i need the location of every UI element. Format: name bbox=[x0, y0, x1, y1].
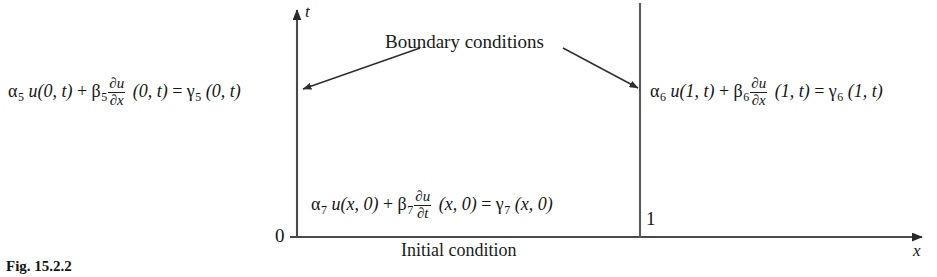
gamma-symbol: γ bbox=[187, 81, 195, 101]
rhs-argument: (0, t) bbox=[206, 81, 241, 101]
equals-operator: = bbox=[481, 194, 491, 214]
beta-subscript: 5 bbox=[101, 90, 108, 104]
initial-condition-label: Initial condition bbox=[401, 240, 516, 261]
figure-15-2-2: α5 u(0, t) + β5∂u∂x (0, t) = γ5 (0, t) α… bbox=[0, 0, 937, 277]
gamma-subscript: 7 bbox=[504, 203, 511, 217]
partial-derivative-fraction: ∂u∂x bbox=[108, 76, 125, 108]
u-term: u(1, t) bbox=[670, 81, 714, 101]
plus-operator: + bbox=[383, 194, 393, 214]
equals-operator: = bbox=[172, 81, 182, 101]
fraction-denominator: ∂t bbox=[414, 205, 431, 222]
alpha-subscript: 5 bbox=[17, 90, 24, 104]
alpha-subscript: 6 bbox=[659, 90, 666, 104]
equation-initial-condition: α7 u(x, 0) + β7∂u∂t (x, 0) = γ7 (x, 0) bbox=[311, 189, 553, 221]
figure-caption: Fig. 15.2.2 bbox=[6, 258, 72, 275]
fraction-numerator: ∂u bbox=[414, 189, 431, 205]
boundary-arrow-right bbox=[563, 48, 638, 88]
derivative-argument: (1, t) bbox=[775, 81, 810, 101]
gamma-symbol: γ bbox=[496, 194, 504, 214]
gamma-subscript: 6 bbox=[837, 90, 844, 104]
u-term: u(x, 0) bbox=[331, 194, 378, 214]
fraction-numerator: ∂u bbox=[108, 76, 125, 92]
partial-derivative-fraction: ∂u∂t bbox=[414, 189, 431, 221]
t-axis-label: t bbox=[305, 2, 310, 22]
fraction-denominator: ∂x bbox=[750, 92, 767, 109]
derivative-argument: (x, 0) bbox=[439, 194, 477, 214]
equation-left-boundary-condition: α5 u(0, t) + β5∂u∂x (0, t) = γ5 (0, t) bbox=[8, 76, 241, 108]
beta-subscript: 6 bbox=[743, 90, 750, 104]
equals-operator: = bbox=[814, 81, 824, 101]
equation-right-boundary-condition: α6 u(1, t) + β6∂u∂x (1, t) = γ6 (1, t) bbox=[650, 76, 883, 108]
x-axis-label: x bbox=[913, 241, 921, 261]
origin-tick-label: 0 bbox=[275, 225, 285, 247]
alpha-subscript: 7 bbox=[320, 203, 327, 217]
boundary-arrow-left bbox=[303, 48, 420, 89]
plus-operator: + bbox=[719, 81, 729, 101]
right-tick-label: 1 bbox=[646, 208, 656, 230]
beta-symbol: β bbox=[92, 81, 101, 101]
beta-symbol: β bbox=[398, 194, 407, 214]
plus-operator: + bbox=[77, 81, 87, 101]
fraction-denominator: ∂x bbox=[108, 92, 125, 109]
boundary-conditions-label: Boundary conditions bbox=[385, 31, 544, 53]
u-term: u(0, t) bbox=[28, 81, 72, 101]
beta-symbol: β bbox=[734, 81, 743, 101]
partial-derivative-fraction: ∂u∂x bbox=[750, 76, 767, 108]
rhs-argument: (x, 0) bbox=[515, 194, 553, 214]
fraction-numerator: ∂u bbox=[750, 76, 767, 92]
gamma-subscript: 5 bbox=[195, 90, 202, 104]
beta-subscript: 7 bbox=[407, 203, 414, 217]
gamma-symbol: γ bbox=[829, 81, 837, 101]
derivative-argument: (0, t) bbox=[133, 81, 168, 101]
rhs-argument: (1, t) bbox=[848, 81, 883, 101]
